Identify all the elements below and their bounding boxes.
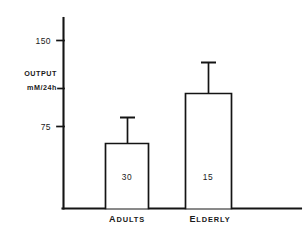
x-label-adults: ADULTS xyxy=(109,214,145,224)
x-label-elderly-rest: LDERLY xyxy=(196,215,230,224)
x-label-elderly: ELDERLY xyxy=(189,214,230,224)
bar-chart: 150 75 OUTPUT mM/24h 30 15 ADULTS ELDERL… xyxy=(0,0,306,235)
x-label-adults-rest: DULTS xyxy=(116,215,145,224)
y-tick-label-150: 150 xyxy=(36,36,51,46)
bar-value-adults: 30 xyxy=(122,172,132,182)
x-label-adults-initial: A xyxy=(109,214,116,224)
y-tick-label-75: 75 xyxy=(41,122,51,132)
y-axis-caption-line2: mM/24h xyxy=(27,83,57,92)
x-label-elderly-initial: E xyxy=(189,214,196,224)
bar-value-elderly: 15 xyxy=(203,172,213,182)
bar-elderly xyxy=(186,94,232,209)
y-axis-caption-line1: OUTPUT xyxy=(24,69,57,78)
chart-figure: 150 75 OUTPUT mM/24h 30 15 ADULTS ELDERL… xyxy=(0,0,306,235)
